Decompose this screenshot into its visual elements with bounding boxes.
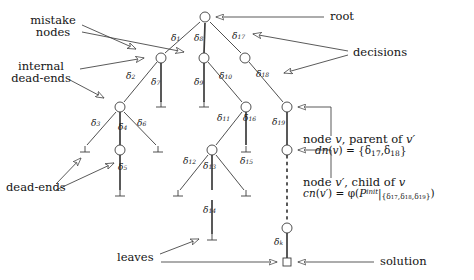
annotation-mistake-nodes-line2: nodes <box>22 26 84 38</box>
node-v <box>282 102 292 112</box>
annotation-internal-dead-ends: internal dead-ends <box>5 60 77 84</box>
annotation-decisions: decisions <box>353 46 407 58</box>
edge-c-v <box>249 62 283 102</box>
decision-label-d9: δ9 <box>194 78 203 87</box>
decision-sub-d7: 7 <box>156 79 160 86</box>
leader-decisions-2 <box>284 55 348 73</box>
decision-label-d7: δ7 <box>151 78 160 87</box>
dead-end-symbol <box>199 101 209 107</box>
decision-label-d15: δ15 <box>240 157 253 166</box>
decision-sub-d9: 9 <box>199 79 203 86</box>
annotation-node-v-line2: dn(v) = {δ17,δ18} <box>303 145 415 158</box>
leader-internal-1 <box>80 58 144 69</box>
decision-sub-d11: 11 <box>222 115 230 122</box>
decision-label-d5: δ5 <box>118 163 127 172</box>
figure-canvas: δ1 δ2 δ3 δ4 δ5 δ6 δ7 δ8 δ9 δ10 δ11 δ12 δ… <box>0 0 474 280</box>
decision-label-d11: δ11 <box>217 114 230 123</box>
node-a <box>156 53 166 63</box>
decision-label-d10: δ10 <box>219 72 232 81</box>
decision-sub-d14: 14 <box>208 207 216 214</box>
dead-end-symbol <box>241 190 251 196</box>
annotation-node-v-prime-line2: cn(v′) = φ(Pinit|{δ17,δ18,δ19}) <box>303 188 435 201</box>
node-b <box>199 53 209 63</box>
node-e <box>241 102 251 112</box>
decision-sub-d18: 18 <box>261 71 269 78</box>
decision-label-d6: δ6 <box>137 119 146 128</box>
decision-label-d19: δ19 <box>272 118 285 127</box>
decision-sub-d15: 15 <box>245 158 253 165</box>
dead-end-symbol <box>173 190 183 196</box>
annotation-leaves: leaves <box>117 251 154 263</box>
decision-label-dk: δk <box>274 238 283 247</box>
decision-sub-d12: 12 <box>188 158 196 165</box>
decision-label-d17: δ17 <box>232 32 245 41</box>
decision-label-d3: δ3 <box>91 119 100 128</box>
decision-label-d4: δ4 <box>118 123 127 132</box>
annotation-internal-dead-ends-line2: dead-ends <box>5 72 77 84</box>
edge-d-deadend2 <box>124 112 156 145</box>
decision-label-d14: δ14 <box>203 206 216 215</box>
dead-end-symbol <box>153 146 163 152</box>
decision-label-d1: δ1 <box>171 34 180 43</box>
decision-sub-d19: 19 <box>277 119 285 126</box>
decision-sub-d13: 13 <box>208 163 216 170</box>
leader-leaves-1 <box>160 239 199 254</box>
annotation-node-v: node v, parent of v′ dn(v) = {δ17,δ18} <box>303 133 415 158</box>
node-k <box>282 223 292 233</box>
dead-end-symbol <box>156 101 166 107</box>
decision-sub-d1: 1 <box>176 35 180 42</box>
decision-sub-d17: 17 <box>237 33 245 40</box>
decision-label-d16: δ16 <box>243 114 256 123</box>
decision-sub-d8: 8 <box>199 35 203 42</box>
node-d <box>115 102 125 112</box>
leader-decisions-1 <box>253 34 348 51</box>
annotation-dead-ends: dead-ends <box>6 181 66 193</box>
decision-sub-d5: 5 <box>123 164 127 171</box>
decision-sub-d3: 3 <box>96 120 100 127</box>
decision-label-d13: δ13 <box>203 162 216 171</box>
decision-sub-d10: 10 <box>224 73 232 80</box>
node-root <box>200 12 210 22</box>
decision-sub-d4: 4 <box>123 124 127 131</box>
edge-b-e <box>208 62 242 102</box>
annotation-mistake-nodes: mistake nodes <box>22 14 84 38</box>
dead-end-symbol <box>241 146 251 152</box>
edge-root-b <box>204 23 205 53</box>
decision-sub-d2: 2 <box>131 73 135 80</box>
decision-sub-d16: 16 <box>248 115 256 122</box>
dead-end-symbol <box>80 146 90 152</box>
dead-end-symbol <box>207 234 217 240</box>
annotation-root: root <box>330 10 354 22</box>
decision-sub-d6: 6 <box>142 120 146 127</box>
node-f <box>115 145 125 155</box>
tree-edges <box>87 22 287 258</box>
decision-label-d12: δ12 <box>183 157 196 166</box>
annotation-solution: solution <box>380 255 427 267</box>
node-g <box>207 145 217 155</box>
decision-label-d18: δ18 <box>256 70 269 79</box>
annotation-node-v-prime: node v′, child of v cn(v′) = φ(Pinit|{δ1… <box>303 176 435 201</box>
node-solution <box>283 258 291 266</box>
decision-label-d2: δ2 <box>126 72 135 81</box>
dead-end-symbol <box>115 190 125 196</box>
decision-sub-dk: k <box>279 239 283 246</box>
node-c <box>240 53 250 63</box>
decision-label-d8: δ8 <box>194 34 203 43</box>
edge-d-deadend <box>87 112 116 145</box>
leader-mistake-2 <box>82 32 184 52</box>
node-v-prime <box>282 145 292 155</box>
